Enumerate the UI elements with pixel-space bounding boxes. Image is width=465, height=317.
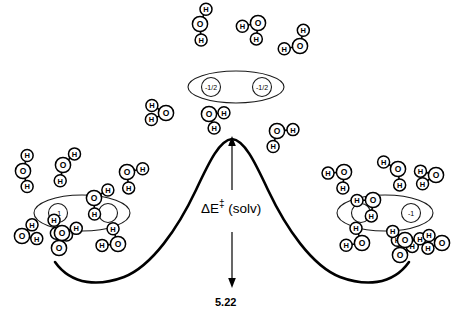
hydrogen-atom-label: H: [420, 180, 425, 189]
water-molecule: OHH: [378, 156, 406, 191]
water-molecule: OHH: [278, 24, 309, 54]
hydrogen-atom-label: H: [105, 186, 110, 195]
hydrogen-atom-label: H: [254, 35, 259, 44]
oxygen-atom-label: O: [20, 166, 27, 176]
ts-charge-label-left: -1/2: [205, 84, 217, 91]
oxygen-atom-label: O: [56, 243, 63, 253]
hydrogen-atom-label: H: [290, 126, 295, 135]
oxygen-atom-label: O: [397, 250, 404, 260]
barrier-solv: (solv): [225, 201, 262, 216]
hydrogen-atom-label: H: [369, 212, 374, 221]
water-molecule: OHH: [15, 150, 33, 193]
product-charge-label-right: -1: [408, 210, 414, 217]
hydrogen-atom-label: H: [126, 184, 131, 193]
activation-barrier-value: 5.22: [215, 296, 236, 308]
oxygen-atom-label: O: [359, 238, 366, 248]
hydrogen-atom-label: H: [92, 210, 97, 219]
hydrogen-atom-label: H: [325, 169, 330, 178]
hydrogen-atom-label: H: [417, 235, 422, 244]
oxygen-atom-label: O: [433, 170, 440, 180]
oxygen-atom-label: O: [124, 167, 131, 177]
oxygen-atom-label: O: [402, 235, 409, 245]
oxygen-atom-label: O: [163, 108, 170, 118]
oxygen-atom-label: O: [439, 238, 446, 248]
water-molecule: OHH: [119, 163, 148, 194]
hydrogen-atom-label: H: [270, 142, 275, 151]
hydrogen-atom-label: H: [390, 227, 395, 236]
water-molecule: OHH: [145, 99, 173, 125]
oxygen-atom-label: O: [91, 193, 98, 203]
hydrogen-atom-label: H: [203, 5, 208, 14]
hydrogen-atom-label: H: [24, 151, 29, 160]
figure-canvas: -1/2 -1/2 -1 -1 OHHOHHOHHOHHOHHOHHOHHOHH…: [0, 0, 465, 317]
oxygen-atom-label: O: [60, 160, 67, 170]
water-molecule: OHH: [322, 164, 352, 194]
oxygen-atom-label: O: [370, 195, 377, 205]
hydrogen-atom-label: H: [34, 235, 39, 244]
oxygen-atom-label: O: [395, 164, 402, 174]
hydrogen-atom-label: H: [24, 182, 29, 191]
hydrogen-atom-label: H: [99, 241, 104, 250]
hydrogen-atom-label: H: [301, 26, 306, 35]
hydrogen-atom-label: H: [343, 241, 348, 250]
hydrogen-atom-label: H: [58, 177, 63, 186]
oxygen-atom-label: O: [197, 19, 204, 29]
ts-charge-label-right: -1/2: [256, 84, 268, 91]
hydrogen-atom-label: H: [340, 184, 345, 193]
reactant-charge-circle-right: [99, 204, 118, 223]
water-molecule: OHH: [201, 106, 230, 134]
hydrogen-atom-label: H: [72, 150, 77, 159]
hydrogen-atom-label: H: [397, 181, 402, 190]
hydrogen-atom-label: H: [354, 196, 359, 205]
hydrogen-atom-label: H: [353, 224, 358, 233]
activation-barrier-label: ΔE‡ (solv): [201, 198, 261, 216]
water-molecule: OHH: [422, 230, 450, 255]
hydrogen-atom-label: H: [140, 165, 145, 174]
water-molecule: OHH: [236, 15, 265, 45]
oxygen-atom-label: O: [274, 126, 281, 136]
transition-state-complex: -1/2 -1/2: [188, 71, 284, 103]
energy-profile-figure: -1/2 -1/2 -1 -1 OHHOHHOHHOHHOHHOHHOHHOHH…: [0, 0, 465, 317]
water-molecule: OHH: [14, 219, 42, 245]
barrier-arrow-up-head: [228, 136, 236, 146]
oxygen-atom-label: O: [297, 41, 304, 51]
hydrogen-atom-label: H: [29, 221, 34, 230]
barrier-delta-e: ΔE: [201, 201, 219, 216]
water-molecule: OHH: [267, 123, 299, 152]
hydrogen-atom-label: H: [240, 22, 245, 31]
hydrogen-atom-label: H: [418, 167, 423, 176]
oxygen-atom-label: O: [255, 18, 262, 28]
hydrogen-atom-label: H: [110, 225, 115, 234]
water-molecule: OHH: [414, 165, 443, 190]
hydrogen-atom-label: H: [51, 216, 56, 225]
hydrogen-atom-label: H: [211, 124, 216, 133]
water-molecule: OHH: [192, 3, 212, 46]
oxygen-atom-label: O: [19, 231, 26, 241]
oxygen-atom-label: O: [59, 228, 66, 238]
hydrogen-atom-label: H: [149, 115, 154, 124]
oxygen-atom-label: O: [341, 167, 348, 177]
hydrogen-atom-label: H: [426, 231, 431, 240]
hydrogen-atom-label: H: [381, 158, 386, 167]
hydrogen-atom-label: H: [282, 45, 287, 54]
barrier-arrow-down-head: [228, 278, 236, 288]
hydrogen-atom-label: H: [198, 36, 203, 45]
oxygen-atom-label: O: [206, 109, 213, 119]
hydrogen-atom-label: H: [149, 101, 154, 110]
hydrogen-atom-label: H: [425, 244, 430, 253]
oxygen-atom-label: O: [115, 239, 122, 249]
water-molecule: OHH: [54, 148, 80, 187]
hydrogen-atom-label: H: [74, 224, 79, 233]
hydrogen-atom-label: H: [221, 109, 226, 118]
